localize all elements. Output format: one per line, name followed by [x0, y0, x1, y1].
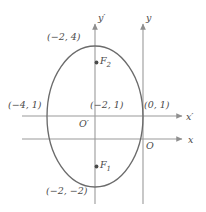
x-prime-axis-label: x′	[186, 112, 194, 122]
focus-upper-subscript: 2	[107, 61, 111, 69]
bottom-vertex-label: (−2, −2)	[46, 186, 87, 196]
focus-upper-point	[95, 61, 99, 65]
y-prime-axis-label: y′	[98, 13, 106, 23]
focus-lower-point	[95, 165, 99, 169]
origin-label: O	[146, 141, 154, 151]
focus-upper-letter: F	[100, 55, 107, 66]
ellipse-figure: y′ y x′ x O′ O (−2, 4) (−4, 1) (−2, 1) (…	[0, 0, 206, 212]
x-axis-label: x	[188, 135, 193, 145]
right-vertex-label: (0, 1)	[144, 100, 170, 110]
focus-upper-label: F2	[100, 56, 111, 69]
focus-lower-subscript: 1	[107, 165, 111, 173]
center-label: (−2, 1)	[90, 100, 124, 110]
origin-prime-label: O′	[79, 119, 89, 129]
top-vertex-label: (−2, 4)	[47, 32, 81, 42]
focus-lower-label: F1	[100, 160, 111, 173]
focus-lower-letter: F	[100, 159, 107, 170]
left-vertex-label: (−4, 1)	[8, 100, 42, 110]
y-axis-label: y	[146, 13, 151, 23]
